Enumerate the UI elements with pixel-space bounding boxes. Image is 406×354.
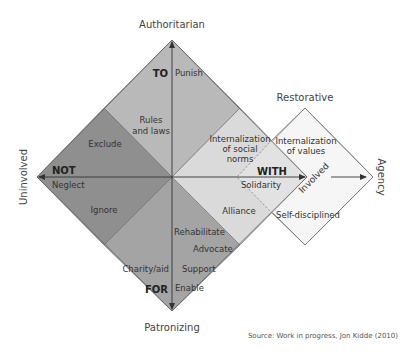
item-internalization-social-1: Internalization: [209, 134, 270, 144]
region-title-for: FOR: [145, 284, 168, 295]
axis-label-uninvolved: Uninvolved: [18, 149, 29, 205]
region-title-with: WITH: [257, 166, 287, 177]
item-support: Support: [182, 264, 216, 274]
item-ignore: Ignore: [90, 205, 117, 215]
item-self-disciplined: Self-disciplined: [276, 210, 340, 220]
axis-label-patronizing: Patronizing: [144, 322, 199, 333]
item-advocate: Advocate: [193, 244, 233, 254]
item-exclude: Exclude: [88, 139, 121, 149]
item-internalization-social-2: of social: [222, 144, 257, 154]
region-title-to: TO: [153, 68, 168, 79]
item-solidarity: Solidarity: [241, 180, 281, 190]
item-internalization-social-3: norms: [227, 154, 254, 164]
item-punish: Punish: [175, 68, 203, 78]
label-restorative: Restorative: [277, 92, 334, 103]
item-internalization-values-1: Internalization: [275, 136, 336, 146]
source-caption: Source: Work in progress, Jon Kidde (201…: [248, 332, 398, 340]
item-neglect: Neglect: [52, 180, 85, 190]
item-enable: Enable: [175, 283, 204, 293]
item-rehabilitate: Rehabilitate: [174, 227, 225, 237]
region-title-not: NOT: [52, 165, 76, 176]
item-rules-and-laws-2: and laws: [132, 126, 170, 136]
item-charity-aid: Charity/aid: [122, 264, 169, 274]
item-alliance: Alliance: [222, 206, 255, 216]
item-internalization-values-2: of values: [287, 146, 326, 156]
item-rules-and-laws-1: Rules: [140, 115, 164, 125]
axis-label-agency: Agency: [376, 158, 387, 195]
axis-label-authoritarian: Authoritarian: [139, 19, 205, 30]
diagram-canvas: Authoritarian Patronizing Uninvolved Age…: [0, 0, 406, 354]
